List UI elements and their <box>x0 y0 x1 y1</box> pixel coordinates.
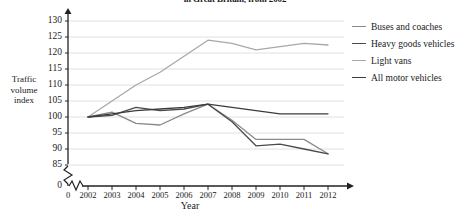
legend-line-swatch-icon <box>352 43 366 44</box>
legend-item-buses-and-coaches[interactable]: Buses and coaches <box>352 18 472 35</box>
traffic-volume-line-chart: in Great Britain, from 2002 Traffic volu… <box>0 0 472 219</box>
legend-line-swatch-icon <box>352 77 366 78</box>
y-axis-break-icon <box>64 166 72 184</box>
legend-label: Buses and coaches <box>371 22 442 32</box>
legend-label: Heavy goods vehicles <box>371 39 454 49</box>
legend-label: Light vans <box>371 56 411 66</box>
legend-item-heavy-goods-vehicles[interactable]: Heavy goods vehicles <box>352 35 472 52</box>
legend-item-all-motor-vehicles[interactable]: All motor vehicles <box>352 69 472 86</box>
legend-line-swatch-icon <box>352 26 366 27</box>
series-line-light-vans <box>88 40 328 117</box>
x-axis-break-icon <box>69 181 83 190</box>
x-axis-arrow <box>347 183 354 190</box>
y-axis-arrow <box>65 8 72 14</box>
legend-line-swatch-icon <box>352 60 366 61</box>
chart-legend: Buses and coachesHeavy goods vehiclesLig… <box>352 18 472 86</box>
series-line-all-motor-vehicles <box>88 104 328 117</box>
legend-label: All motor vehicles <box>371 73 442 83</box>
legend-item-light-vans[interactable]: Light vans <box>352 52 472 69</box>
